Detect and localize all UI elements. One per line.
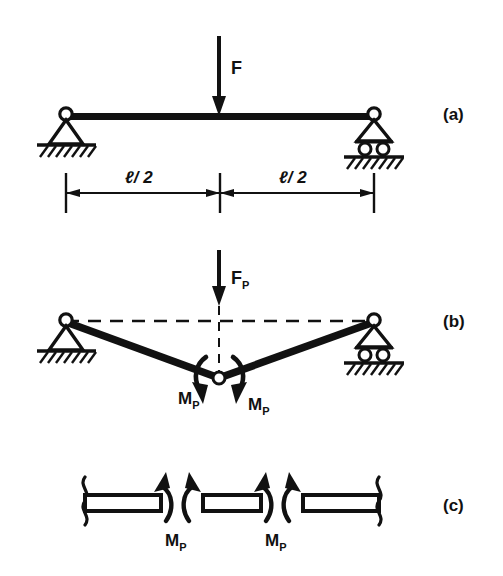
panel-c: MP MP (c)	[83, 472, 464, 553]
segment-left-body	[85, 495, 161, 511]
beam-member-a	[66, 113, 374, 120]
force-label-F: F	[231, 58, 242, 78]
figure-root: F	[0, 0, 503, 576]
ground-hatch-right-a	[347, 158, 403, 169]
plastic-hinge-circle	[213, 372, 225, 384]
segment-right-body	[303, 495, 379, 511]
moment-label-right-c-main: M	[265, 531, 279, 550]
dim-arrowhead-right-inner	[220, 189, 234, 197]
moment-label-right-c: MP	[265, 531, 287, 553]
dim-arrowhead-left-inner	[206, 189, 220, 197]
moment-arrow-right-b	[231, 357, 247, 404]
beam-segment-right-c	[303, 477, 381, 525]
panel-letter-c: (c)	[443, 496, 464, 515]
moment-arrow-left-b	[192, 357, 208, 404]
dimension-label-left: ℓ/ 2	[125, 168, 153, 187]
moment-label-left-b-main: M	[178, 389, 192, 408]
dimension-label-right: ℓ/ 2	[279, 168, 307, 187]
panel-letter-b: (b)	[443, 312, 465, 331]
force-arrow-F	[212, 36, 226, 116]
panel-letter-a: (a)	[443, 105, 464, 124]
ground-hatch-right-b	[347, 364, 403, 375]
dim-arrowhead-right-outer	[360, 189, 374, 197]
moment-label-right-b-main: M	[248, 395, 262, 414]
force-arrow-Fp	[212, 250, 226, 306]
ground-hatch-left-b	[40, 352, 96, 363]
engineering-diagram-canvas: F	[0, 0, 503, 576]
dim-arrowhead-left-outer	[66, 189, 80, 197]
force-label-Fp-sub: P	[242, 279, 249, 291]
moment-label-right-c-sub: P	[279, 541, 286, 553]
segment-middle-body-c	[203, 495, 261, 511]
panel-a: F	[37, 36, 464, 213]
pinned-support-left-b	[37, 314, 96, 363]
moment-label-right-b: MP	[248, 395, 270, 417]
beam-segment-left-c	[83, 477, 161, 525]
ground-hatch-left-a	[40, 146, 96, 157]
moment-arrow-left-inner-c	[184, 472, 201, 521]
moment-label-left-c: MP	[165, 531, 187, 553]
moment-label-left-c-main: M	[165, 531, 179, 550]
moment-label-left-b-sub: P	[192, 399, 199, 411]
panel-b: FP MP MP	[37, 250, 465, 417]
moment-label-left-b: MP	[178, 389, 200, 411]
force-label-Fp: FP	[231, 268, 249, 291]
roller-support-right-b	[344, 314, 404, 375]
force-label-Fp-main: F	[231, 268, 242, 288]
moment-arrow-right-outer-c	[284, 472, 301, 521]
moment-label-left-c-sub: P	[179, 541, 186, 553]
moment-label-right-b-sub: P	[262, 405, 269, 417]
beam-break-right-icon	[377, 477, 381, 525]
dimension-group-a: ℓ/ 2 ℓ/ 2	[66, 168, 374, 213]
